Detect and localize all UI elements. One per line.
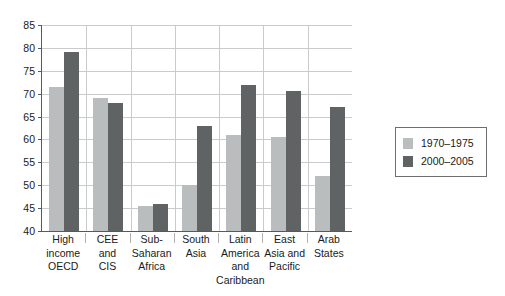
legend-swatch-icon	[403, 156, 413, 167]
legend-label: 2000–2005	[421, 156, 474, 167]
bar	[153, 204, 168, 231]
x-category-label-line: States	[300, 247, 358, 261]
legend-label: 1970–1975	[421, 138, 474, 149]
bar	[197, 126, 212, 231]
bar	[182, 185, 197, 231]
y-axis: 85807570656055504540	[7, 0, 35, 296]
y-tick-label: 50	[9, 180, 35, 190]
bar	[330, 107, 345, 231]
chart-legend: 1970–1975 2000–2005	[395, 127, 487, 177]
bar	[49, 87, 64, 231]
plot-area	[41, 25, 352, 232]
bar	[271, 137, 286, 231]
y-tick-label: 45	[9, 203, 35, 213]
y-tick-label: 55	[9, 157, 35, 167]
legend-swatch-icon	[403, 138, 413, 149]
bar	[286, 91, 301, 231]
x-axis-category-labels: HighincomeOECDCEEandCISSub-SaharanAfrica…	[41, 233, 351, 296]
x-category-label-line: Pacific	[255, 260, 313, 274]
y-tick-label: 70	[9, 89, 35, 99]
legend-item-2000-2005: 2000–2005	[403, 155, 474, 168]
bar	[108, 103, 123, 231]
y-tick-label: 65	[9, 112, 35, 122]
legend-item-1970-1975: 1970–1975	[403, 137, 474, 150]
bar	[241, 85, 256, 231]
y-tick-label: 75	[9, 66, 35, 76]
bar	[315, 176, 330, 231]
bar-chart: 85807570656055504540 HighincomeOECDCEEan…	[0, 0, 505, 296]
y-tick-mark	[38, 231, 42, 232]
bars-layer	[42, 25, 352, 231]
y-tick-label: 80	[9, 43, 35, 53]
bar	[93, 98, 108, 231]
y-tick-label: 40	[9, 226, 35, 236]
y-tick-label: 85	[9, 20, 35, 30]
x-category-label-line: Arab	[300, 233, 358, 247]
x-category-label-line: Africa	[123, 260, 181, 274]
bar	[226, 135, 241, 231]
bar	[64, 52, 79, 231]
bar	[138, 206, 153, 231]
x-category-label: ArabStates	[300, 233, 358, 260]
x-category-label-line: Caribbean	[211, 274, 269, 288]
y-tick-label: 60	[9, 134, 35, 144]
